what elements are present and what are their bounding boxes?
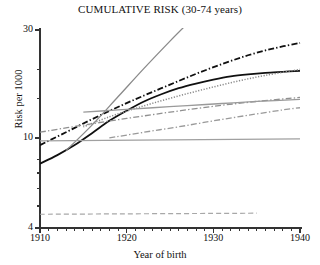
- series-black-dashdot-line: [40, 43, 300, 145]
- clipped-series-group: [40, 24, 300, 215]
- chart-container: CUMULATIVE RISK (30-74 years) Risk per 1…: [0, 0, 320, 265]
- axis-ticks: [35, 30, 300, 233]
- y-tick-label: 10: [23, 131, 33, 142]
- series-gray-solid-horizontal-line: [40, 139, 300, 141]
- series-gray-dashdot-lower-line: [109, 108, 300, 138]
- series-gray-solid-flat-curve: [83, 99, 300, 112]
- plot-area: [0, 0, 320, 265]
- series-gray-steep-solid-line: [66, 24, 187, 151]
- series-gray-dashed-bottom-line: [40, 213, 257, 214]
- series-gray-dashdot-upper-line: [40, 97, 300, 132]
- x-tick-label: 1920: [117, 232, 137, 243]
- x-tick-label: 1930: [203, 232, 223, 243]
- x-tick-label: 1940: [290, 232, 310, 243]
- x-tick-label: 1910: [30, 232, 50, 243]
- series-gray-dotted-curve: [83, 69, 300, 126]
- data-series-layer: [40, 24, 300, 215]
- y-tick-label: 4: [28, 221, 33, 232]
- y-tick-label: 30: [23, 23, 33, 34]
